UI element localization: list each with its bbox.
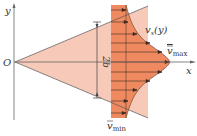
y-axis-arrowhead [13,3,16,8]
vmax-label: vmax [167,45,187,58]
dimension-label: 2b [101,55,111,68]
x-axis-label: x [186,65,192,76]
vmin-label: vmin [107,120,127,133]
y-axis-label: y [4,5,11,16]
profile-curve-label: vx(y) [145,24,168,36]
jet-profile-diagram: y x O 2b vx(y) vmax vmin [0,0,197,136]
x-axis-arrowhead [190,61,196,64]
origin-label: O [3,57,11,68]
